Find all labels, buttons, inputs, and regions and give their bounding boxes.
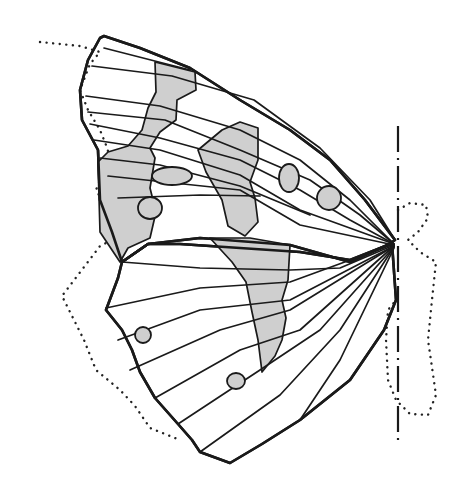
spot bbox=[317, 186, 341, 210]
spot bbox=[227, 373, 245, 389]
spot bbox=[135, 327, 151, 343]
butterfly-wing-diagram bbox=[0, 0, 462, 493]
wing-drawing bbox=[0, 0, 462, 493]
spot bbox=[152, 167, 192, 185]
spot bbox=[138, 197, 162, 219]
spot bbox=[279, 164, 299, 192]
forewing-discal-band bbox=[198, 122, 258, 236]
